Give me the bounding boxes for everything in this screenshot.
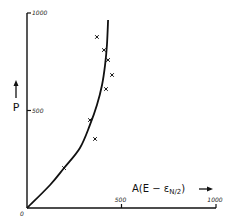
x-axis-label: A(E − εN/2) (132, 183, 185, 196)
x-axis: 5001000 (27, 196, 223, 208)
x-marker-icon (93, 137, 97, 141)
fitted-curve (27, 20, 108, 208)
x-marker-icon (110, 73, 114, 77)
x-tick-label: 500 (115, 196, 127, 203)
x-tick-label: 1000 (207, 196, 222, 203)
x-axis-label-subscript: N/2 (169, 188, 181, 196)
y-axis: 5001000 (27, 9, 47, 208)
y-tick-label: 500 (32, 107, 44, 114)
origin-label: 0 (20, 210, 24, 217)
y-tick-label: 1000 (32, 9, 47, 16)
y-axis-arrow-icon (14, 80, 19, 86)
x-marker-icon (104, 87, 108, 91)
x-axis-label-main: A(E − ε (132, 183, 169, 194)
y-axis-label-group: P (13, 80, 20, 114)
x-marker-icon (106, 58, 110, 62)
y-axis-label: P (13, 101, 20, 114)
chart: 5001000 5001000 P A(E − εN/2) 0 (0, 0, 238, 224)
x-axis-arrow-icon (207, 187, 213, 192)
x-marker-icon (95, 35, 99, 39)
x-marker-icon (102, 48, 106, 52)
x-axis-label-group: A(E − εN/2) (132, 183, 213, 196)
x-axis-label-close: ) (181, 183, 185, 194)
fitted-curve-path (27, 20, 108, 208)
